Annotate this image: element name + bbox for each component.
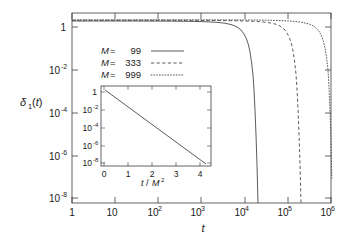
inset-x-tick-label-4: 4 (198, 169, 203, 179)
x-tick-exponent-6: 6 (331, 205, 335, 212)
inset-x-tick-label-0: 0 (102, 169, 107, 179)
inset-x-tick-label-1: 1 (126, 169, 131, 179)
inset-x-axis-label: t / M 2 (141, 177, 165, 188)
inset-y-tick-label-2: 10 (83, 123, 93, 133)
legend-entry-1-equals: = (110, 57, 116, 68)
y-tick-exponent-1: -2 (61, 63, 67, 70)
log-log-decay-plot: 1 10 10 2 10 3 10 4 10 5 10 6 1 10 -2 10… (0, 0, 349, 250)
x-axis-tick-labels: 1 10 10 2 10 3 10 4 10 5 10 6 (69, 205, 335, 218)
inset-y-tick-exponent-3: -6 (93, 140, 99, 146)
y-axis-label-arg: (t) (32, 96, 42, 108)
inset-x-tick-label-3: 3 (174, 169, 179, 179)
legend-entry-2-value: 999 (125, 69, 141, 80)
inset-y-tick-labels: 1 10 -2 10 -4 10 -6 10 -8 (83, 87, 99, 168)
legend-entry-0-equals: = (110, 45, 116, 56)
y-tick-exponent-2: -4 (61, 106, 67, 113)
legend: M = 99 M = 333 M = 999 (101, 45, 184, 80)
legend-entry-0-value: 99 (130, 45, 141, 56)
legend-entry-2-equals: = (110, 69, 116, 80)
inset-x-axis-label-t: t (141, 178, 144, 188)
inset-plot: 1 10 -2 10 -4 10 -6 10 -8 0 1 2 3 4 t (83, 86, 211, 188)
x-tick-exponent-4: 4 (245, 205, 249, 212)
y-axis-tick-labels: 1 10 -2 10 -4 10 -6 10 -8 (49, 22, 67, 204)
inset-y-tick-label-1: 10 (83, 105, 93, 115)
y-tick-label-3: 10 (49, 151, 61, 162)
x-tick-label-1: 10 (106, 207, 118, 218)
inset-x-axis-label-exponent: 2 (161, 177, 165, 183)
inset-frame (101, 86, 211, 166)
legend-entry-0-symbol: M (101, 45, 109, 56)
inset-y-tick-label-3: 10 (83, 141, 93, 151)
y-tick-label-4: 10 (49, 193, 61, 204)
inset-x-axis-label-slash: / (146, 178, 149, 188)
y-tick-label-2: 10 (49, 108, 61, 119)
y-axis-label-delta: δ (20, 96, 27, 108)
y-axis-label-arg-t: t (36, 96, 40, 108)
inset-y-tick-label-0: 1 (92, 87, 97, 97)
legend-entry-2-symbol: M (101, 69, 109, 80)
figure-container: 1 10 10 2 10 3 10 4 10 5 10 6 1 10 -2 10… (0, 0, 349, 250)
x-tick-exponent-2: 2 (158, 205, 162, 212)
x-tick-label-0: 1 (69, 207, 75, 218)
x-tick-exponent-3: 3 (201, 205, 205, 212)
x-tick-exponent-5: 5 (288, 205, 292, 212)
inset-y-tick-label-4: 10 (83, 158, 93, 168)
legend-entry-1-value: 333 (125, 57, 141, 68)
y-tick-label-1: 10 (49, 65, 61, 76)
y-tick-exponent-4: -8 (61, 191, 67, 198)
y-tick-label-0: 1 (60, 22, 66, 33)
x-axis-label: t (201, 222, 205, 234)
inset-y-tick-exponent-2: -4 (93, 122, 99, 128)
inset-y-tick-exponent-1: -2 (93, 104, 99, 110)
y-tick-exponent-3: -6 (61, 149, 67, 156)
inset-y-tick-exponent-4: -8 (93, 157, 99, 163)
inset-x-axis-label-m: M (152, 178, 160, 188)
legend-entry-1-symbol: M (101, 57, 109, 68)
